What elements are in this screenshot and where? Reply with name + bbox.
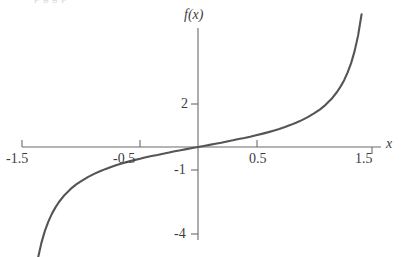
y-tick-label--1: -1 (174, 163, 186, 177)
y-tick-label--4: -4 (174, 227, 186, 241)
x-tick-label--0.5: -0.5 (113, 152, 135, 166)
y-tick-label-2: 2 (181, 97, 188, 111)
x-tick-label--1.5: -1.5 (6, 152, 28, 166)
x-axis-label: x (386, 137, 392, 151)
y-axis-label: f(x) (184, 8, 203, 22)
figure-container: p g g p -1.5 -0.5 0.5 1.5 2 -1 -4 x f(x) (0, 0, 407, 257)
x-tick-label-0.5: 0.5 (249, 152, 267, 166)
x-tick-label-1.5: 1.5 (355, 152, 373, 166)
plot-canvas (0, 0, 407, 257)
